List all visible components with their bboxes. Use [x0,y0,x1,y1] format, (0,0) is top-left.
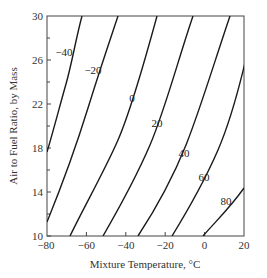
curve-label-60: 60 [199,171,211,183]
y-tick-22: 22 [32,98,43,110]
y-ticks [47,38,51,236]
y-axis-title: Air to Fuel Ratio, by Mass [7,67,19,184]
x-tick-m60: −60 [78,239,96,251]
x-tick-20: 20 [239,239,251,251]
curve-label-20: 20 [152,117,164,129]
y-tick-26: 26 [32,54,44,66]
x-tick-m20: −20 [157,239,175,251]
x-axis-title: Mixture Temperature, °C [90,258,201,270]
x-tick-m40: −40 [117,239,135,251]
y-tick-labels: 10 14 18 22 26 30 [32,10,44,242]
curve-label-0: 0 [129,92,135,104]
plot-frame [47,16,244,236]
curve-m40 [47,16,82,152]
curve-label-m40: −40 [55,46,73,58]
curve-label-40: 40 [179,147,191,159]
chart-canvas: 10 14 18 22 26 30 −80 −60 −40 −20 0 20 M… [0,0,267,278]
y-tick-18: 18 [32,142,44,154]
x-tick-m80: −80 [37,239,55,251]
curve-0 [70,16,157,236]
curve-label-80: 80 [221,195,233,207]
y-tick-14: 14 [32,186,44,198]
curve-label-m20: −20 [84,64,102,76]
y-tick-30: 30 [32,10,44,22]
x-tick-labels: −80 −60 −40 −20 0 20 [37,239,250,251]
curves [47,16,248,236]
x-tick-0: 0 [202,239,208,251]
